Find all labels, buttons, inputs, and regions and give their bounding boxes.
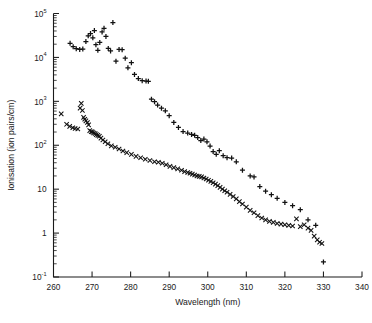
y-tick-label: 103 <box>34 95 46 106</box>
data-point <box>156 160 160 164</box>
data-point <box>95 48 100 53</box>
scatter-plot: 10-1110102103104105260270280290300310320… <box>0 0 372 323</box>
y-tick-label: 105 <box>34 8 46 19</box>
chart-figure: 10-1110102103104105260270280290300310320… <box>0 0 372 323</box>
data-point <box>263 189 268 194</box>
data-point <box>90 35 95 40</box>
data-point <box>287 223 291 227</box>
data-point <box>204 139 209 144</box>
data-point <box>229 156 234 161</box>
data-point <box>181 129 186 134</box>
x-tick-label: 290 <box>162 282 176 292</box>
data-point <box>80 47 85 52</box>
data-point <box>306 226 310 230</box>
x-tick-label: 330 <box>317 282 331 292</box>
data-point <box>103 34 108 39</box>
data-point <box>279 222 283 226</box>
x-tick-label: 270 <box>85 282 99 292</box>
data-point <box>267 219 271 223</box>
data-point <box>256 213 260 217</box>
data-point <box>313 223 318 228</box>
series-lower-branch <box>59 101 324 246</box>
data-point <box>68 41 73 46</box>
data-point <box>309 228 313 232</box>
data-point <box>298 207 303 212</box>
data-point <box>176 125 181 130</box>
data-point <box>283 223 287 227</box>
data-point <box>143 157 147 161</box>
data-point <box>167 113 172 118</box>
data-point <box>290 224 294 228</box>
data-point <box>282 200 287 205</box>
x-tick-label: 310 <box>239 282 253 292</box>
data-point <box>252 211 256 215</box>
data-point <box>271 220 275 224</box>
data-point <box>129 152 133 156</box>
data-point <box>148 158 152 162</box>
data-point <box>240 168 245 173</box>
data-point <box>92 28 97 33</box>
data-point <box>120 47 125 52</box>
data-point <box>123 56 128 61</box>
data-point <box>155 103 160 108</box>
data-point <box>79 101 83 105</box>
y-axis-title: Ionisation (ion pairs/cm) <box>6 100 16 191</box>
data-point <box>59 112 63 116</box>
data-point <box>149 97 154 102</box>
data-point <box>138 156 142 160</box>
data-point <box>208 144 213 149</box>
data-point <box>248 173 253 178</box>
data-point <box>172 165 176 169</box>
y-tick-label: 10-1 <box>32 271 46 282</box>
data-point <box>134 154 138 158</box>
data-point <box>275 196 280 201</box>
data-point <box>80 108 84 112</box>
data-point <box>76 127 80 131</box>
y-tick-label: 104 <box>34 51 46 62</box>
data-point <box>252 174 257 179</box>
data-point <box>257 184 262 189</box>
x-tick-label: 260 <box>47 282 61 292</box>
data-point <box>237 199 241 203</box>
data-point <box>110 20 115 25</box>
data-point <box>129 60 134 65</box>
y-tick-label: 1 <box>42 228 47 238</box>
x-axis-title: Wavelength (nm) <box>175 297 240 307</box>
data-point <box>214 152 219 157</box>
data-point <box>275 221 279 225</box>
data-point <box>269 192 274 197</box>
data-point <box>125 65 130 70</box>
data-point <box>234 159 239 164</box>
data-point <box>211 149 216 154</box>
data-point <box>248 208 252 212</box>
data-point <box>159 106 164 111</box>
data-point <box>175 167 179 171</box>
data-point <box>321 259 326 264</box>
x-tick-label: 320 <box>278 282 292 292</box>
data-point <box>152 99 157 104</box>
data-point <box>163 108 168 113</box>
x-tick-label: 340 <box>355 282 369 292</box>
data-point <box>160 161 164 165</box>
data-point <box>132 72 137 77</box>
data-point <box>217 148 222 153</box>
data-point <box>113 59 118 64</box>
x-tick-label: 300 <box>201 282 215 292</box>
data-point <box>290 203 295 208</box>
data-point <box>171 120 176 125</box>
y-tick-label: 102 <box>34 139 46 150</box>
x-tick-label: 280 <box>124 282 138 292</box>
data-point <box>294 217 298 221</box>
y-tick-label: 10 <box>37 184 47 194</box>
data-point <box>306 217 311 222</box>
data-point <box>83 39 88 44</box>
